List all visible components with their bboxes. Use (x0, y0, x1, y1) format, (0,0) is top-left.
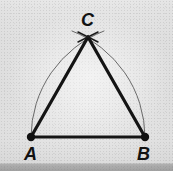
vertex-label-c: C (81, 11, 94, 29)
arc-crossing-mark-at-c (78, 32, 98, 42)
triangle-side-ac (31, 37, 88, 137)
geometry-figure: A B C (0, 0, 173, 171)
triangle-side-bc (88, 37, 145, 137)
vertex-dot-b (141, 133, 149, 141)
vertex-dot-a (27, 133, 35, 141)
vertex-label-b: B (137, 145, 150, 163)
vertex-label-a: A (24, 145, 37, 163)
